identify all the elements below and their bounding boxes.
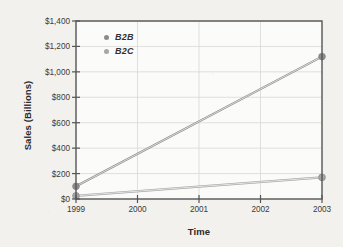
x-axis-tick-label: 2003 xyxy=(302,205,342,214)
y-axis-title: Sales (Billions) xyxy=(22,51,33,181)
legend-label: B2B xyxy=(115,32,134,42)
chart-container: $0$200$400$600$800$1,000$1,200$1,400 199… xyxy=(0,0,343,247)
y-axis-tick-label: $0 xyxy=(24,195,70,204)
legend-marker-icon xyxy=(104,35,109,40)
x-axis-tick-label: 2000 xyxy=(118,205,158,214)
legend-item-b2b: B2B xyxy=(104,30,134,44)
legend-item-b2c: B2C xyxy=(104,44,134,58)
x-axis-tick-label: 2001 xyxy=(179,205,219,214)
legend-label: B2C xyxy=(115,46,134,56)
chart-legend: B2BB2C xyxy=(104,30,134,58)
x-axis-title: Time xyxy=(76,226,322,237)
legend-marker-icon xyxy=(104,49,109,54)
x-axis-tick-label: 1999 xyxy=(56,205,96,214)
y-axis-tick-label: $1,400 xyxy=(24,17,70,26)
x-axis-tick-label: 2002 xyxy=(241,205,281,214)
